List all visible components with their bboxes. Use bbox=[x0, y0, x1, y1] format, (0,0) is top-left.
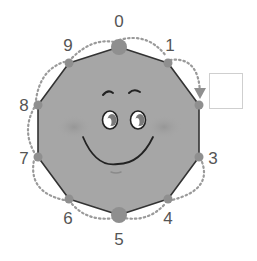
vertex-label-7: 7 bbox=[19, 150, 28, 167]
vertex-label-4: 4 bbox=[163, 210, 172, 227]
diagram-canvas bbox=[0, 0, 257, 261]
vertex-6 bbox=[65, 195, 74, 204]
vertex-0 bbox=[111, 39, 127, 55]
answer-box[interactable] bbox=[209, 73, 243, 109]
vertex-label-8: 8 bbox=[19, 97, 28, 114]
vertex-label-3: 3 bbox=[208, 150, 217, 167]
vertex-8 bbox=[34, 101, 43, 110]
right-cheek bbox=[146, 115, 182, 139]
decagon-diagram: 0 1 3 4 5 6 7 8 9 bbox=[0, 0, 257, 261]
left-cheek bbox=[56, 115, 92, 139]
arrow-head-icon bbox=[194, 88, 206, 99]
vertex-label-1: 1 bbox=[165, 37, 174, 54]
vertex-3 bbox=[195, 153, 204, 162]
vertex-9 bbox=[65, 59, 74, 68]
vertex-5 bbox=[111, 207, 127, 223]
vertex-label-0: 0 bbox=[114, 13, 123, 30]
vertex-2 bbox=[195, 101, 204, 110]
vertex-4 bbox=[164, 195, 173, 204]
vertex-label-5: 5 bbox=[114, 231, 123, 248]
vertex-label-9: 9 bbox=[63, 37, 72, 54]
vertex-1 bbox=[164, 59, 173, 68]
vertex-label-6: 6 bbox=[63, 210, 72, 227]
vertex-7 bbox=[34, 153, 43, 162]
